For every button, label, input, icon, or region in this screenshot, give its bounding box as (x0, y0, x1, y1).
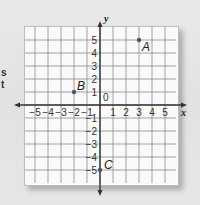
y-tick-label: 2 (91, 74, 97, 85)
origin-label: 0 (103, 92, 109, 103)
point-c-label: C (104, 158, 113, 172)
x-tick-label: −2 (68, 107, 80, 118)
x-tick-label: 3 (136, 107, 142, 118)
x-tick-label: −4 (42, 107, 54, 118)
y-tick-label: −3 (86, 139, 98, 150)
point-c-marker (98, 168, 102, 172)
y-tick-label: 4 (91, 48, 97, 59)
x-tick-label: 4 (149, 107, 155, 118)
y-axis-up-arrow-icon (98, 21, 103, 27)
coordinate-plane: xy −5−4−3−2−11234554321−1−2−3−4−50 ABC (0, 0, 200, 205)
x-tick-label: 1 (110, 107, 116, 118)
y-tick-label: 1 (91, 87, 97, 98)
point-b-marker (72, 90, 76, 94)
x-tick-label: −5 (29, 107, 41, 118)
y-tick-label: −4 (86, 152, 98, 163)
point-a-label: A (141, 40, 150, 54)
x-tick-label: −3 (55, 107, 67, 118)
x-axis-label: x (180, 107, 186, 118)
point-b-label: B (77, 79, 85, 93)
point-a-marker (137, 38, 141, 42)
y-axis-label: y (103, 13, 109, 24)
y-tick-label: 3 (91, 61, 97, 72)
x-axis-left-arrow-icon (14, 103, 20, 108)
x-tick-label: 2 (123, 107, 129, 118)
y-tick-label: 5 (91, 35, 97, 46)
y-axis-down-arrow-icon (98, 190, 103, 196)
y-tick-label: −5 (86, 165, 98, 176)
x-tick-label: 5 (162, 107, 168, 118)
y-tick-label: −2 (86, 126, 98, 137)
y-tick-label: −1 (86, 113, 98, 124)
